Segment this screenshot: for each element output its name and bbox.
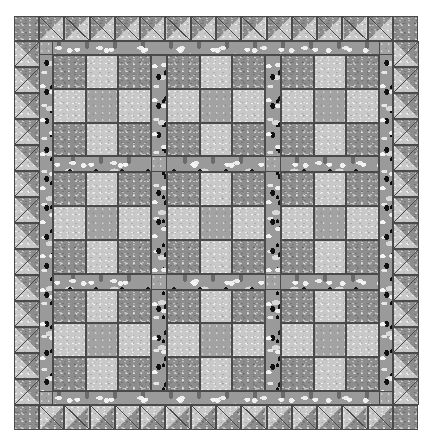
nine-patch-cell (86, 240, 119, 274)
triangle-seam (192, 406, 215, 429)
nine-patch-cell (53, 123, 86, 157)
triangle-seam (15, 42, 39, 66)
border-triangle-top (90, 16, 115, 41)
triangle-seam (242, 17, 265, 40)
nine-patch-cell (118, 123, 151, 157)
triangle-seam (394, 302, 418, 326)
border-triangle-right (393, 41, 419, 67)
nine-patch-cell (118, 172, 151, 206)
border-triangle-right (393, 67, 419, 93)
triangle-seam (394, 172, 418, 196)
nine-patch-cell (86, 89, 119, 123)
inner-frame-cornerstone-tl (39, 41, 53, 55)
nine-patch-cell (232, 123, 265, 157)
border-triangle-bottom (267, 405, 292, 430)
nine-patch-cell (314, 240, 347, 274)
nine-patch-cell (118, 323, 151, 357)
border-triangle-right (393, 119, 419, 145)
triangle-seam (65, 17, 88, 40)
sashing-cornerstone (151, 156, 167, 172)
triangle-seam (343, 406, 366, 429)
border-triangle-top (64, 16, 89, 41)
sashing-cornerstone (265, 274, 281, 290)
nine-patch-cell (200, 357, 233, 391)
nine-patch-cell (167, 323, 200, 357)
nine-patch-cell (118, 89, 151, 123)
inner-frame-right (379, 41, 393, 405)
nine-patch-cell (346, 172, 379, 206)
triangle-seam (217, 17, 240, 40)
border-triangle-bottom (216, 405, 241, 430)
border-triangle-left (14, 379, 40, 405)
border-triangle-bottom (39, 405, 64, 430)
nine-patch-cell (167, 357, 200, 391)
nine-patch-cell (86, 290, 119, 324)
nine-patch-cell (53, 290, 86, 324)
border-triangle-top (267, 16, 292, 41)
nine-patch-cell (200, 55, 233, 89)
inner-frame-cornerstone-bl (39, 391, 53, 405)
triangle-seam (394, 42, 418, 66)
triangle-seam (40, 17, 63, 40)
nine-patch-cell (232, 290, 265, 324)
border-triangle-left (14, 353, 40, 379)
sashing-horizontal (53, 274, 379, 290)
nine-patch-cell (167, 240, 200, 274)
nine-patch-cell (53, 172, 86, 206)
nine-patch-cell (346, 323, 379, 357)
nine-patch-cell (314, 290, 347, 324)
border-triangle-right (393, 327, 419, 353)
nine-patch-cell (232, 172, 265, 206)
nine-patch-cell (86, 123, 119, 157)
nine-patch-cell (53, 240, 86, 274)
nine-patch-cell (53, 89, 86, 123)
nine-patch-cell (53, 323, 86, 357)
border-triangle-left (14, 301, 40, 327)
nine-patch-cell (86, 172, 119, 206)
nine-patch-cell (167, 206, 200, 240)
inner-frame-left (39, 41, 53, 405)
triangle-seam (394, 354, 418, 378)
triangle-seam (91, 406, 114, 429)
sashing-cornerstone (265, 156, 281, 172)
nine-patch-cell (118, 206, 151, 240)
nine-patch-cell (281, 123, 314, 157)
nine-patch-cell (200, 240, 233, 274)
triangle-seam (116, 17, 139, 40)
triangle-seam (15, 276, 39, 300)
triangle-seam (293, 406, 316, 429)
triangle-seam (15, 120, 39, 144)
border-triangle-top (140, 16, 165, 41)
border-triangle-bottom (317, 405, 342, 430)
border-triangle-top (241, 16, 266, 41)
border-triangle-left (14, 249, 40, 275)
nine-patch-cell (167, 123, 200, 157)
border-triangle-bottom (140, 405, 165, 430)
triangle-seam (394, 68, 418, 92)
border-corner-bottom-left (14, 405, 39, 430)
nine-patch-cell (314, 89, 347, 123)
nine-patch-cell (167, 172, 200, 206)
nine-patch-cell (232, 323, 265, 357)
nine-patch-cell (200, 323, 233, 357)
border-triangle-top (292, 16, 317, 41)
triangle-seam (15, 354, 39, 378)
nine-patch-cell (167, 290, 200, 324)
inner-frame-top (39, 41, 393, 55)
nine-patch-cell (200, 290, 233, 324)
triangle-seam (15, 172, 39, 196)
triangle-seam (15, 224, 39, 248)
nine-patch-cell (118, 240, 151, 274)
nine-patch-cell (200, 206, 233, 240)
border-triangle-top (165, 16, 190, 41)
triangle-seam (293, 17, 316, 40)
nine-patch-cell (314, 172, 347, 206)
sashing-cornerstone (151, 274, 167, 290)
sashing-vertical (151, 55, 167, 391)
triangle-seam (217, 406, 240, 429)
nine-patch-cell (232, 55, 265, 89)
border-triangle-bottom (342, 405, 367, 430)
border-triangle-left (14, 93, 40, 119)
triangle-seam (141, 406, 164, 429)
nine-patch-cell (281, 240, 314, 274)
